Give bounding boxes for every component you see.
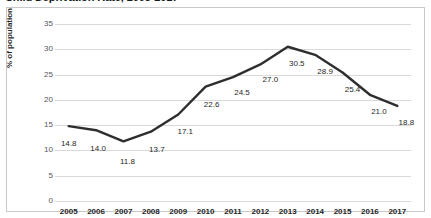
chart-screenshot: Child Deprivation Rate, 2005-2017 % of p… — [0, 0, 431, 218]
y-tick-label: 35 — [31, 20, 53, 28]
data-label: 27.0 — [263, 75, 279, 84]
x-tick-label: 2014 — [306, 207, 324, 216]
x-tick-label: 2013 — [279, 207, 297, 216]
series-line — [69, 47, 398, 142]
y-tick-label: 5 — [31, 172, 53, 180]
y-tick-label: 0 — [31, 197, 53, 205]
y-axis-title: % of population — [5, 8, 14, 68]
data-label: 25.4 — [345, 85, 361, 94]
y-tick-label: 10 — [31, 146, 53, 154]
x-tick-label: 2017 — [388, 207, 406, 216]
y-tick-label: 25 — [31, 71, 53, 79]
y-tick-label: 15 — [31, 121, 53, 129]
chart-frame: % of population 05101520253035 14.814.01… — [6, 7, 425, 212]
data-label: 13.7 — [149, 145, 165, 154]
x-tick-label: 2016 — [361, 207, 379, 216]
y-tick-label: 20 — [31, 96, 53, 104]
data-label: 22.6 — [204, 100, 220, 109]
x-tick-label: 2006 — [87, 207, 105, 216]
x-axis-tick-labels: 2005200620072008200920102011201220132014… — [55, 207, 411, 218]
x-tick-label: 2012 — [251, 207, 269, 216]
chart-title: Child Deprivation Rate, 2005-2017 — [5, 0, 178, 3]
data-label: 30.5 — [289, 59, 305, 68]
data-label: 11.8 — [120, 157, 135, 166]
plot-area: 14.814.011.813.717.122.624.527.030.528.9… — [55, 24, 411, 201]
x-tick-label: 2007 — [115, 207, 133, 216]
data-label: 18.8 — [399, 118, 415, 127]
x-tick-label: 2005 — [60, 207, 78, 216]
gridline — [55, 201, 411, 202]
data-label: 17.1 — [177, 127, 193, 136]
y-tick-label: 30 — [31, 45, 53, 53]
data-label: 28.9 — [317, 67, 333, 76]
x-tick-label: 2008 — [142, 207, 160, 216]
data-label: 14.8 — [61, 139, 77, 148]
x-tick-label: 2015 — [334, 207, 352, 216]
data-label: 14.0 — [90, 144, 106, 153]
x-tick-label: 2011 — [224, 207, 241, 216]
line-series — [55, 24, 411, 201]
data-label: 21.0 — [371, 107, 387, 116]
x-tick-label: 2009 — [169, 207, 187, 216]
y-axis-tick-labels: 05101520253035 — [25, 24, 53, 201]
x-tick-label: 2010 — [197, 207, 215, 216]
data-label: 24.5 — [234, 88, 250, 97]
